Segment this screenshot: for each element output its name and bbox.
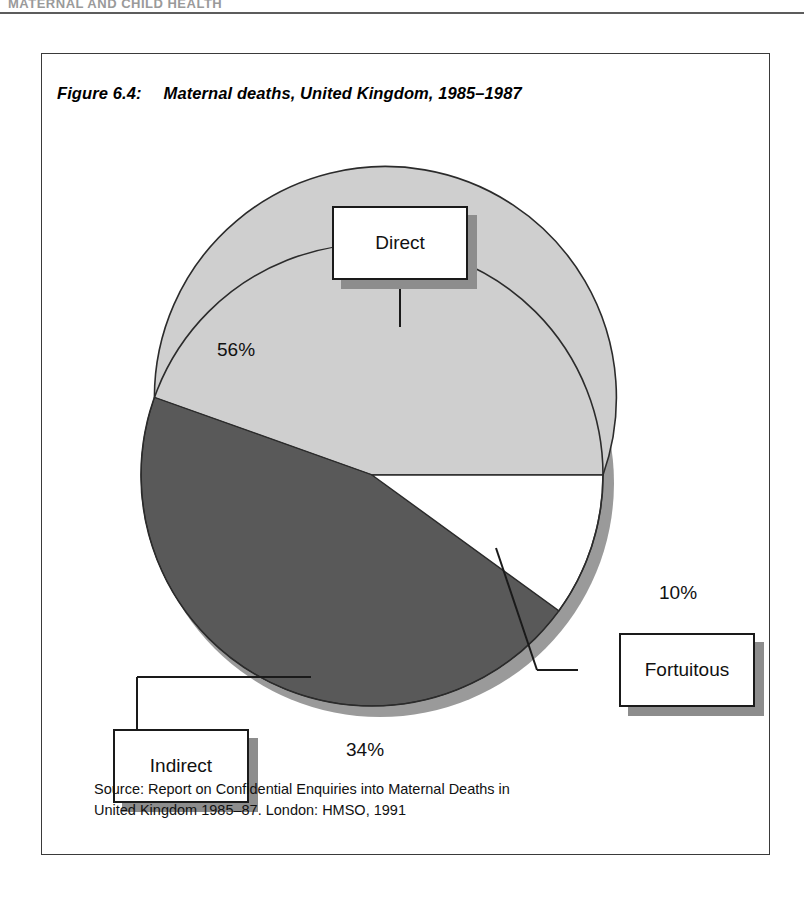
callout-fortuitous[interactable]: Fortuitous (619, 633, 755, 707)
pie-value-label-indirect: 34% (346, 739, 384, 761)
callout-direct-label: Direct (375, 232, 425, 254)
figure-source-line-1: Source: Report on Confidential Enquiries… (94, 779, 614, 800)
pie-chart: 56% 34% 10% Direct Fortuitous Indirect (41, 53, 770, 855)
callout-fortuitous-label: Fortuitous (645, 659, 729, 681)
callout-direct-box: Direct (332, 206, 468, 280)
callout-direct[interactable]: Direct (332, 206, 468, 280)
figure-source-line-2: United Kingdom 1985–87. London: HMSO, 19… (94, 800, 614, 821)
header-rule (0, 12, 804, 14)
page-header-remnant: MATERNAL AND CHILD HEALTH (8, 0, 258, 9)
pie-value-label-direct: 56% (217, 339, 255, 361)
figure-page: MATERNAL AND CHILD HEALTH Figure 6.4:Mat… (0, 0, 804, 898)
figure-source-note: Source: Report on Confidential Enquiries… (94, 779, 614, 821)
callout-indirect-label: Indirect (150, 755, 212, 777)
pie-value-label-fortuitous: 10% (659, 582, 697, 604)
callout-fortuitous-box: Fortuitous (619, 633, 755, 707)
